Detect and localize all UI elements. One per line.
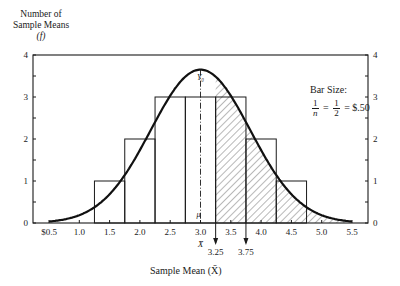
y-tick-label-left: 1 bbox=[24, 176, 29, 186]
x-tick-label: 3.0 bbox=[195, 227, 207, 237]
x-tick-label: 1.5 bbox=[104, 227, 116, 237]
fraction-1-over-n: 1 n bbox=[312, 99, 319, 118]
histogram-bar bbox=[94, 181, 124, 223]
frac1-denominator: n bbox=[312, 109, 319, 118]
peak-label-y0: Y₀ bbox=[197, 73, 204, 82]
frac2-denominator: 2 bbox=[333, 109, 340, 118]
bar-size-result: $.50 bbox=[352, 102, 370, 113]
y-tick-label-right: 4 bbox=[373, 50, 378, 60]
y-tick-label-right: 2 bbox=[373, 134, 378, 144]
arrow-value-label: 3.25 bbox=[208, 247, 224, 257]
y-axis-label-line1: Number of bbox=[4, 9, 78, 20]
x-tick-label: 3.5 bbox=[225, 227, 237, 237]
histogram-chart: $0.51.01.52.02.53.03.54.04.55.05.5012340… bbox=[0, 0, 400, 286]
equals-sign: = bbox=[323, 102, 329, 113]
xbar-label: X̄ bbox=[197, 239, 204, 249]
x-tick-label: 1.0 bbox=[74, 227, 86, 237]
bar-size-note: Bar Size: 1 n = 1 2 = $.50 bbox=[310, 84, 370, 118]
fraction-1-over-2: 1 2 bbox=[333, 99, 340, 118]
bar-size-title: Bar Size: bbox=[310, 84, 370, 96]
y-axis-label: Number of Sample Means (f) bbox=[4, 9, 78, 42]
arrow-value-label: 3.75 bbox=[238, 247, 254, 257]
x-tick-label: 4.5 bbox=[286, 227, 298, 237]
x-axis-label: Sample Mean (X̄) bbox=[150, 266, 222, 276]
y-tick-label-right: 3 bbox=[373, 92, 378, 102]
y-tick-label-right: 1 bbox=[373, 176, 378, 186]
arrow-down-icon bbox=[243, 238, 248, 245]
y-axis-label-line3: (f) bbox=[4, 31, 78, 42]
mu-label: μ bbox=[195, 210, 200, 219]
x-tick-label: 5.5 bbox=[346, 227, 358, 237]
bar-size-equation: 1 n = 1 2 = $.50 bbox=[310, 99, 370, 118]
y-tick-label-left: 3 bbox=[24, 92, 29, 102]
y-axis-label-line2: Sample Means bbox=[4, 20, 78, 31]
equals-sign: = bbox=[344, 102, 350, 113]
y-tick-label-left: 2 bbox=[24, 134, 29, 144]
y-tick-label-right: 0 bbox=[373, 218, 378, 228]
y-tick-label-left: 4 bbox=[24, 50, 29, 60]
x-tick-label: 2.0 bbox=[134, 227, 146, 237]
x-tick-label: $0.5 bbox=[41, 227, 57, 237]
x-tick-label: 2.5 bbox=[165, 227, 177, 237]
x-tick-label: 5.0 bbox=[316, 227, 328, 237]
arrow-down-icon bbox=[213, 238, 218, 245]
y-tick-label-left: 0 bbox=[24, 218, 29, 228]
x-tick-label: 4.0 bbox=[255, 227, 267, 237]
